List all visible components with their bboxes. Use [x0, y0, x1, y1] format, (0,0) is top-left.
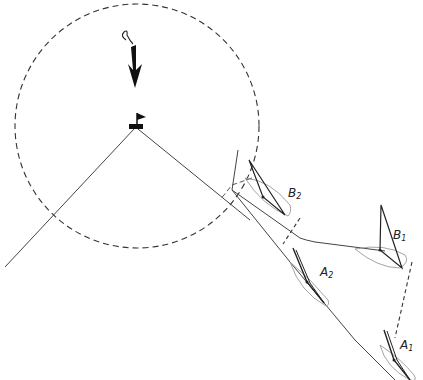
wind-arrow-icon — [122, 31, 142, 88]
label-a1: A1 — [399, 338, 413, 353]
sailing-diagram: B2 B1 A2 A1 — [0, 0, 423, 380]
flagged-mark-icon — [129, 113, 146, 129]
track-b2 — [232, 150, 385, 251]
label-b2: B2 — [288, 186, 301, 201]
boat-a1 — [380, 330, 415, 380]
label-a2: A2 — [319, 265, 333, 280]
overlap-b1-a1 — [395, 262, 412, 338]
boat-b2 — [245, 160, 291, 216]
label-b1: B1 — [393, 228, 406, 243]
track-a — [232, 190, 395, 380]
overlap-b2-a2 — [283, 218, 300, 244]
starboard-layline — [138, 129, 250, 220]
